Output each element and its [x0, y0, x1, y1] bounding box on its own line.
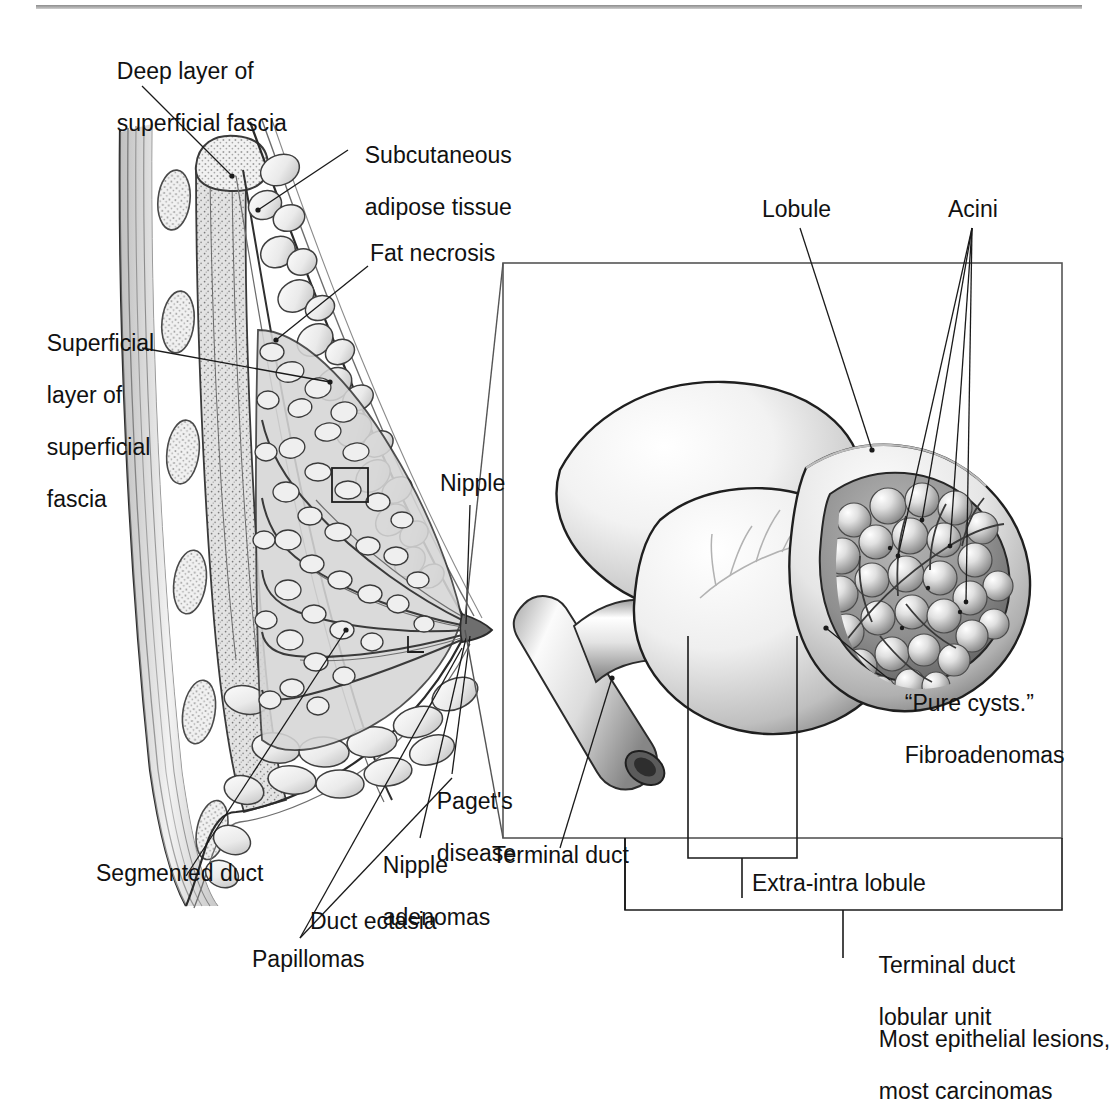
label-terminal-duct: Terminal duct — [492, 842, 629, 868]
label-duct-ectasia: Duct ectasia — [310, 908, 437, 934]
label-segmented-duct: Segmented duct — [96, 860, 264, 886]
label-deep-layer-of-superficial-fascia: Deep layer of superficial fascia — [104, 32, 287, 136]
label-subcutaneous-adipose-tissue: Subcutaneous adipose tissue — [352, 116, 512, 220]
label-nipple: Nipple — [440, 470, 505, 496]
label-pure-cysts-fibroadenomas: “Pure cysts.” Fibroadenomas — [892, 664, 1065, 768]
label-lobule: Lobule — [762, 196, 831, 222]
label-extra-intra-lobule: Extra-intra lobule — [752, 870, 926, 896]
label-fat-necrosis: Fat necrosis — [370, 240, 495, 266]
nipple-structure — [461, 614, 493, 642]
label-acini: Acini — [948, 196, 998, 222]
label-most-epithelial-lesions: Most epithelial lesions, most carcinomas — [866, 1000, 1110, 1103]
label-papillomas: Papillomas — [252, 946, 365, 972]
label-superficial-layer-of-superficial-fascia: Superficial layer of superficial fascia — [34, 304, 154, 512]
